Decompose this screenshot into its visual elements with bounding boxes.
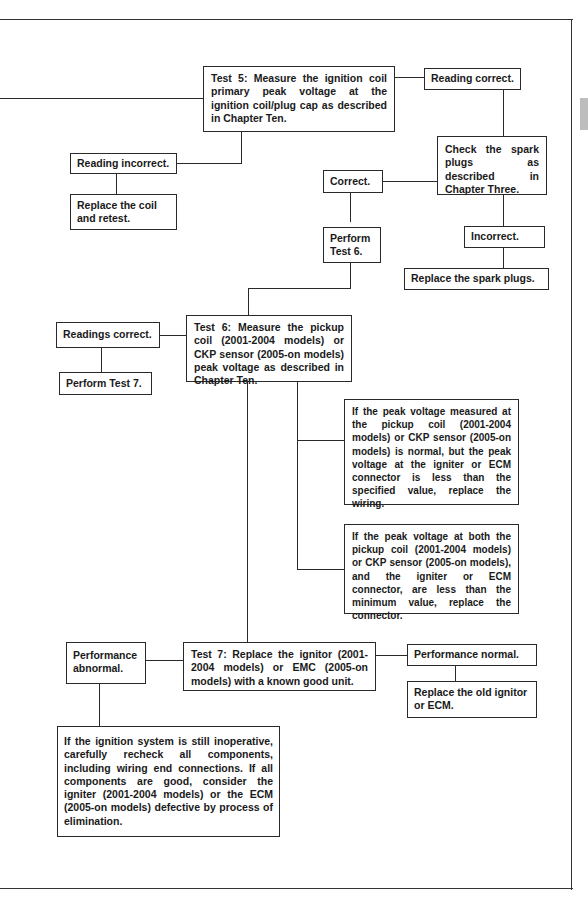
- connector-test6-to-notes: [297, 381, 298, 570]
- connector-test7-to-normal: [375, 655, 407, 656]
- connector-test6-to-readings-correct: [159, 335, 186, 336]
- connector-to-note-wiring: [297, 440, 344, 441]
- connector-test7-to-abnormal: [145, 660, 183, 661]
- connector-normal-to-replace-ignitor: [455, 665, 456, 681]
- check-spark-plugs-box: Check the spark plugs as described in Ch…: [437, 136, 547, 195]
- connector-check-plugs-to-incorrect: [503, 194, 504, 226]
- connector-correct-to-perform-test6: [350, 192, 351, 222]
- test7-box: Test 7: Replace the ignitor (2001-2004 m…: [183, 642, 376, 691]
- connector-incorrect-to-replace-coil: [116, 173, 117, 194]
- perform-test6-box: Perform Test 6.: [323, 227, 381, 263]
- test6-box: Test 6: Measure the pickup coil (2001-20…: [186, 315, 352, 382]
- connector-test6-to-test7: [247, 381, 248, 642]
- connector-test5-down: [241, 131, 242, 163]
- connector-to-note-connector: [297, 569, 344, 570]
- connector-incorrect-to-replace-plugs: [503, 247, 504, 268]
- connector-incoming-test5: [0, 98, 203, 99]
- test7-performance-normal-box: Performance normal.: [407, 644, 537, 666]
- test5-box: Test 5: Measure the ignition coil primar…: [203, 66, 395, 132]
- connector-test5-to-correct: [394, 77, 424, 78]
- connector-to-test6-vertical: [248, 288, 249, 315]
- perform-test7-box: Perform Test 7.: [59, 372, 152, 395]
- frame-top-border: [0, 19, 573, 20]
- connector-to-test6-horizontal: [248, 288, 351, 289]
- replace-spark-plugs-box: Replace the spark plugs.: [404, 268, 549, 290]
- test5-reading-correct-box: Reading correct.: [424, 68, 521, 90]
- frame-right-border: [571, 19, 572, 890]
- connector-correct-to-check-plugs: [503, 89, 504, 136]
- final-note-box: If the ignition system is still inoperat…: [57, 726, 280, 837]
- chapter-side-tab: [580, 98, 588, 130]
- test5-reading-incorrect-box: Reading incorrect.: [70, 153, 177, 174]
- frame-bottom-border: [0, 888, 573, 889]
- test6-readings-correct-box: Readings correct.: [56, 322, 160, 348]
- connector-to-reading-incorrect: [176, 163, 242, 164]
- test7-performance-abnormal-box: Performance abnormal.: [66, 642, 146, 684]
- plugs-correct-box: Correct.: [323, 170, 383, 193]
- test6-note-wiring-box: If the peak voltage measured at the pick…: [344, 399, 519, 505]
- connector-perform-test6-down: [350, 262, 351, 289]
- connector-abnormal-to-final-note: [99, 683, 100, 726]
- connector-readings-correct-to-test7: [101, 347, 102, 372]
- test6-note-connector-box: If the peak voltage at both the pickup c…: [344, 524, 519, 614]
- replace-old-ignitor-box: Replace the old ignitor or ECM.: [407, 681, 537, 718]
- connector-check-plugs-to-correct: [382, 181, 437, 182]
- plugs-incorrect-box: Incorrect.: [464, 226, 545, 248]
- replace-coil-box: Replace the coil and retest.: [70, 194, 177, 230]
